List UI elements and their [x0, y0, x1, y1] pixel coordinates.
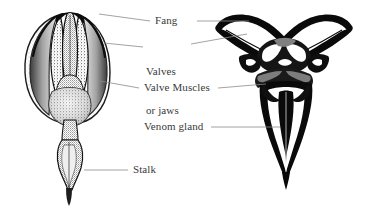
label-valves-line2: or jaws: [146, 104, 179, 117]
right-gland-tip: [282, 172, 290, 190]
left-external-view: [25, 13, 110, 207]
left-stalk: [57, 120, 82, 206]
label-stalk: Stalk: [133, 163, 156, 176]
anatomy-illustration: [0, 0, 368, 208]
right-cross-section-view: [215, 14, 353, 190]
label-valves-line1: Valves: [146, 65, 179, 78]
stalk-tip: [66, 188, 72, 206]
leader-valves-left: [104, 43, 143, 47]
diagram-figure: Fang Valves or jaws Valve Muscles Venom …: [0, 0, 368, 208]
label-valve-muscles: Valve Muscles: [144, 81, 210, 94]
stalk-neck: [62, 120, 78, 140]
label-fang: Fang: [155, 14, 177, 27]
label-venom-gland: Venom gland: [144, 120, 203, 133]
leader-fang-left: [99, 14, 150, 21]
